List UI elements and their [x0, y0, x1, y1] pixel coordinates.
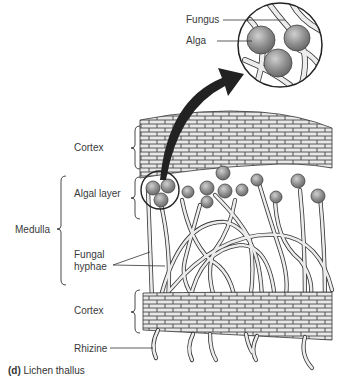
label-cortex-lower: Cortex [74, 305, 103, 316]
braces [57, 126, 140, 333]
label-cortex-upper: Cortex [74, 142, 103, 153]
label-fungal-hyphae-1: Fungal [74, 249, 105, 260]
caption-label: (d) [8, 365, 21, 376]
label-rhizine: Rhizine [74, 343, 107, 354]
zoom-inset [238, 0, 325, 90]
fungal-hyphae [148, 180, 332, 300]
label-alga: Alga [186, 35, 206, 46]
label-algal-layer: Algal layer [74, 188, 121, 199]
label-fungus: Fungus [186, 14, 219, 25]
lichen-diagram [0, 0, 337, 384]
label-medulla: Medulla [15, 224, 50, 235]
caption-text: Lichen thallus [24, 365, 85, 376]
lower-cortex [143, 292, 332, 340]
label-fungal-hyphae-2: hyphae [74, 261, 107, 272]
alga-cell-3 [264, 49, 292, 77]
figure-caption: (d) Lichen thallus [8, 365, 85, 376]
alga-cell-1 [247, 26, 275, 54]
alga-cell-2 [284, 25, 310, 51]
